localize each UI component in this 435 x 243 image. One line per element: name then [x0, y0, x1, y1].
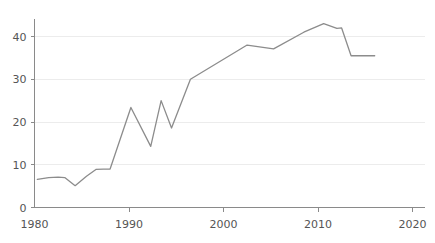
y-tick-label-0: 0 [20, 202, 27, 215]
x-axis-ticks-group [129, 208, 413, 212]
data-series-line [37, 24, 374, 186]
x-tick-label-2020: 2020 [399, 218, 427, 231]
y-tick-label-10: 10 [13, 159, 27, 172]
y-tick-label-40: 40 [13, 31, 27, 44]
chart-canvas: 010203040 19801990200020102020 [0, 0, 435, 243]
x-tick-label-2010: 2010 [304, 218, 332, 231]
x-tick-label-1980: 1980 [21, 218, 49, 231]
x-axis-labels-group: 19801990200020102020 [21, 218, 427, 231]
y-tick-label-30: 30 [13, 73, 27, 86]
line-chart: 010203040 19801990200020102020 [0, 0, 435, 243]
y-axis-labels-group: 010203040 [13, 31, 27, 215]
y-tick-label-20: 20 [13, 116, 27, 129]
y-axis-ticks-group [31, 37, 35, 208]
x-tick-label-1990: 1990 [115, 218, 143, 231]
x-tick-label-2000: 2000 [210, 218, 238, 231]
